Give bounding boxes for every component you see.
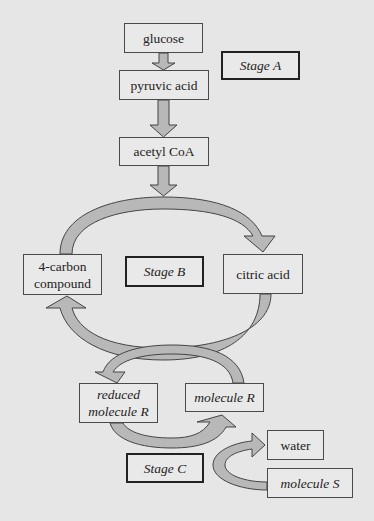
stage-c-label: Stage C [126, 453, 204, 483]
respiration-diagram: glucose Stage A pyruvic acid acetyl CoA … [0, 0, 374, 521]
node-citric-acid: citric acid [223, 254, 303, 294]
stage-b-label: Stage B [125, 256, 204, 287]
arrow-pyruvic-to-acetyl [150, 100, 177, 137]
node-glucose: glucose [124, 23, 203, 53]
node-reduced-molecule-r: reduced molecule R [79, 383, 158, 423]
stage-c-text: Stage C [144, 460, 186, 477]
arrow-fourcarbon-to-citric [60, 197, 275, 254]
node-molecule-r: molecule R [185, 383, 264, 412]
stage-b-text: Stage B [144, 263, 186, 280]
arrow-moleculeS-to-water [213, 433, 267, 490]
arrow-glucose-to-pyruvic [152, 53, 175, 70]
node-acetyl-coa: acetyl CoA [119, 137, 209, 166]
node-four-carbon-compound: 4-carbon compound [23, 254, 102, 295]
node-molecule-s: molecule S [267, 468, 353, 498]
node-reduced-r-line1: reduced [97, 386, 140, 403]
node-four-carbon-line1: 4-carbon [39, 258, 87, 275]
node-water-label: water [281, 437, 311, 454]
node-glucose-label: glucose [143, 30, 184, 47]
node-acetyl-coa-label: acetyl CoA [133, 143, 194, 160]
node-reduced-r-line2: molecule R [88, 403, 148, 420]
node-water: water [267, 430, 324, 460]
node-molecule-r-label: molecule R [194, 389, 254, 406]
stage-a-label: Stage A [221, 51, 300, 80]
node-molecule-s-label: molecule S [281, 475, 340, 492]
node-four-carbon-line2: compound [34, 275, 91, 292]
arrow-acetyl-to-cycle [150, 166, 177, 196]
node-pyruvic-acid-label: pyruvic acid [130, 77, 197, 94]
node-pyruvic-acid: pyruvic acid [119, 70, 209, 100]
node-citric-acid-label: citric acid [236, 266, 290, 283]
stage-a-text: Stage A [240, 57, 281, 74]
